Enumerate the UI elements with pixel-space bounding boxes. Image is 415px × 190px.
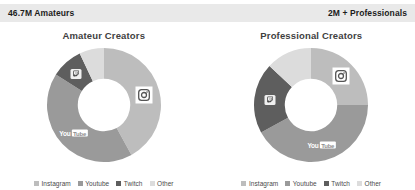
twitch-glyph bbox=[73, 70, 80, 77]
legend-label-instagram: Instagram bbox=[41, 180, 70, 187]
instagram-glyph bbox=[334, 69, 347, 82]
instagram-icon bbox=[136, 86, 153, 103]
legend-professional: Instagram Youtube Twitch Other bbox=[208, 180, 415, 187]
chart-panel-professional: Professional Creators bbox=[208, 26, 415, 190]
donut-slices-amateur bbox=[47, 48, 161, 162]
charts-row: Amateur Creators bbox=[0, 26, 415, 190]
legend-swatch-youtube bbox=[285, 181, 290, 186]
legend-swatch-other bbox=[357, 181, 362, 186]
chart-title-amateur: Amateur Creators bbox=[0, 30, 208, 41]
instagram-glyph bbox=[138, 88, 151, 101]
legend-label-youtube: Youtube bbox=[85, 180, 109, 187]
twitch-icon bbox=[264, 95, 275, 105]
legend-label-twitch: Twitch bbox=[124, 180, 143, 187]
legend-item-instagram[interactable]: Instagram bbox=[241, 180, 278, 187]
youtube-icon: You Tube bbox=[59, 130, 87, 137]
youtube-you-text: You bbox=[307, 142, 318, 149]
legend-item-twitch[interactable]: Twitch bbox=[116, 180, 142, 187]
donut-chart-professional: You Tube bbox=[252, 46, 370, 164]
legend-label-twitch: Twitch bbox=[331, 180, 350, 187]
legend-swatch-other bbox=[150, 181, 155, 186]
legend-swatch-instagram bbox=[241, 181, 246, 186]
chart-title-professional: Professional Creators bbox=[208, 30, 415, 41]
youtube-tube-text: Tube bbox=[71, 130, 87, 137]
donut-slice-youtube[interactable] bbox=[47, 74, 131, 162]
legend-label-youtube: Youtube bbox=[293, 180, 317, 187]
legend-item-youtube[interactable]: Youtube bbox=[78, 180, 109, 187]
twitch-glyph bbox=[266, 96, 273, 103]
legend-swatch-twitch bbox=[324, 181, 329, 186]
youtube-tube-text: Tube bbox=[320, 142, 336, 149]
donut-svg-amateur bbox=[45, 46, 163, 164]
legend-item-youtube[interactable]: Youtube bbox=[285, 180, 316, 187]
youtube-you-text: You bbox=[59, 130, 70, 137]
legend-item-other[interactable]: Other bbox=[150, 180, 174, 187]
legend-swatch-instagram bbox=[34, 181, 39, 186]
header-stats-band: 46.7M Amateurs 2M + Professionals bbox=[0, 4, 415, 22]
professionals-stat: 2M + Professionals bbox=[328, 8, 407, 18]
legend-item-twitch[interactable]: Twitch bbox=[324, 180, 350, 187]
legend-item-instagram[interactable]: Instagram bbox=[34, 180, 71, 187]
amateurs-stat: 46.7M Amateurs bbox=[8, 8, 74, 18]
legend-item-other[interactable]: Other bbox=[357, 180, 381, 187]
legend-label-other: Other bbox=[365, 180, 382, 187]
legend-label-other: Other bbox=[157, 180, 174, 187]
twitch-icon bbox=[71, 69, 82, 79]
chart-panel-amateur: Amateur Creators bbox=[0, 26, 208, 190]
legend-swatch-youtube bbox=[78, 181, 83, 186]
instagram-icon bbox=[332, 67, 349, 84]
youtube-icon: You Tube bbox=[307, 142, 335, 149]
legend-swatch-twitch bbox=[116, 181, 121, 186]
legend-amateur: Instagram Youtube Twitch Other bbox=[0, 180, 208, 187]
legend-label-instagram: Instagram bbox=[249, 180, 278, 187]
creator-platform-infographic: 46.7M Amateurs 2M + Professionals Amateu… bbox=[0, 0, 415, 190]
donut-chart-amateur: You Tube bbox=[45, 46, 163, 164]
